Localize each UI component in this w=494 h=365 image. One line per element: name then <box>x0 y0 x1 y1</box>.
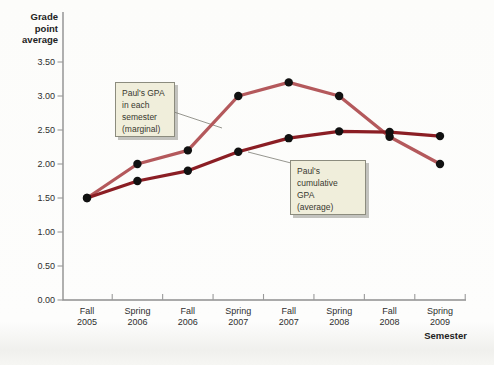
x-category-label: 2007 <box>279 317 299 327</box>
x-category-label: Spring <box>225 306 251 316</box>
callout-marginal-gpa: Paul's GPA in each semester (marginal) <box>115 82 175 137</box>
data-point-cumulative-1 <box>133 177 141 185</box>
y-axis-title-line: Grade <box>0 11 58 23</box>
y-tick-label: 2.50 <box>37 125 55 135</box>
leader-line-average <box>248 152 291 163</box>
data-point-cumulative-0 <box>83 194 91 202</box>
x-axis-title: Semester <box>360 330 467 341</box>
callout-cumulative-gpa: Paul's cumulative GPA (average) <box>290 160 366 215</box>
y-tick-label: 1.00 <box>37 227 55 237</box>
x-category-label: Fall <box>281 306 296 316</box>
callout-marginal-line: semester <box>122 111 168 123</box>
y-tick-label: 3.00 <box>37 91 55 101</box>
y-axis-title-line: point <box>0 23 58 35</box>
x-category-label: Fall <box>181 306 196 316</box>
y-tick-label: 1.50 <box>37 193 55 203</box>
data-point-cumulative-2 <box>184 167 192 175</box>
callout-marginal-line: Paul's GPA <box>122 87 168 99</box>
y-axis-title: Grade point average <box>0 11 58 46</box>
data-point-cumulative-7 <box>436 132 444 140</box>
data-point-marginal-2 <box>184 146 192 154</box>
callout-average-line: (average) <box>297 201 359 213</box>
x-category-label: Spring <box>326 306 352 316</box>
y-tick-label: 0.00 <box>37 295 55 305</box>
x-category-label: 2006 <box>127 317 147 327</box>
data-point-cumulative-4 <box>285 134 293 142</box>
x-category-label: Spring <box>124 306 150 316</box>
y-tick-label: 0.50 <box>37 261 55 271</box>
y-axis-title-line: average <box>0 34 58 46</box>
data-point-cumulative-6 <box>385 128 393 136</box>
x-category-label: Fall <box>382 306 397 316</box>
data-point-marginal-5 <box>335 92 343 100</box>
data-point-marginal-4 <box>285 78 293 86</box>
x-category-label: 2008 <box>329 317 349 327</box>
callout-average-line: cumulative <box>297 177 359 189</box>
y-tick-label: 2.00 <box>37 159 55 169</box>
x-category-label: 2007 <box>228 317 248 327</box>
data-point-marginal-3 <box>234 92 242 100</box>
x-category-label: Spring <box>427 306 453 316</box>
gpa-chart-figure: 0.000.501.001.502.002.503.003.50Fall2005… <box>0 0 494 365</box>
data-point-marginal-1 <box>133 160 141 168</box>
x-category-label: 2006 <box>178 317 198 327</box>
chart-canvas: 0.000.501.001.502.002.503.003.50Fall2005… <box>0 0 494 365</box>
x-category-label: 2008 <box>380 317 400 327</box>
callout-marginal-line: in each <box>122 99 168 111</box>
callout-marginal-line: (marginal) <box>122 123 168 135</box>
data-point-cumulative-5 <box>335 127 343 135</box>
x-category-label: Fall <box>80 306 95 316</box>
callout-average-line: GPA <box>297 189 359 201</box>
x-category-label: 2009 <box>430 317 450 327</box>
data-point-cumulative-3 <box>234 148 242 156</box>
y-tick-label: 3.50 <box>37 57 55 67</box>
callout-average-line: Paul's <box>297 165 359 177</box>
x-category-label: 2005 <box>77 317 97 327</box>
data-point-marginal-7 <box>436 160 444 168</box>
